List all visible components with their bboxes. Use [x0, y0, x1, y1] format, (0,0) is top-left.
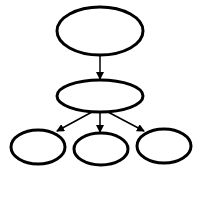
tree-diagram	[0, 0, 208, 204]
node-root	[57, 7, 143, 55]
node-child-left	[11, 130, 65, 164]
edge-middle-to-child-right	[108, 112, 144, 131]
edge-middle-to-child-left	[57, 112, 92, 131]
node-child-right	[137, 129, 191, 163]
node-middle	[57, 80, 143, 112]
node-child-center	[74, 133, 128, 165]
